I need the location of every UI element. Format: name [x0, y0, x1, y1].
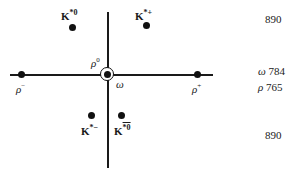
rho-minus-dot [18, 71, 25, 78]
mass-top: 890 [265, 14, 282, 25]
rho-zero-label: ρ0 [91, 57, 100, 69]
rho-minus-label: ρ− [16, 83, 25, 95]
k-star-0-dot [69, 24, 76, 31]
mass-rho: ρ 765 [258, 82, 283, 93]
mass-bottom: 890 [265, 130, 282, 141]
center-dot [104, 71, 111, 78]
k-star-0-label: K*0 [61, 9, 78, 22]
rho-plus-label: ρ+ [192, 83, 201, 95]
k-star-plus-dot [143, 22, 150, 29]
k-star-plus-label: K*+ [135, 9, 152, 22]
k-star-0-bar-dot [118, 112, 125, 119]
mass-omega: ω 784 [258, 66, 285, 77]
vertical-axis [107, 12, 109, 168]
k-star-minus-label: K*− [81, 124, 98, 137]
rho-plus-dot [194, 71, 201, 78]
k-star-0-bar-label: K*0 [114, 124, 131, 137]
k-star-minus-dot [88, 112, 95, 119]
omega-label: ω [116, 79, 124, 90]
